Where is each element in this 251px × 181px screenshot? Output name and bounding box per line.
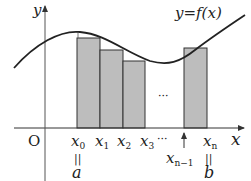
label-x3: x3 (140, 132, 154, 151)
label-xn: xn (203, 132, 217, 151)
rect-3 (123, 61, 145, 128)
middle-ellipsis: ··· (158, 90, 169, 103)
label-x2: x2 (117, 132, 131, 151)
label-b: b (204, 163, 214, 181)
label-a: a (72, 163, 82, 181)
x-axis-label: x (231, 129, 241, 149)
y-axis-label: y (32, 1, 42, 19)
curve-f (14, 15, 245, 68)
curve-label: y=f(x) (174, 4, 222, 22)
label-xn-1: xn−1 (166, 149, 194, 168)
axis-ellipsis: ··· (157, 133, 168, 146)
rectangles (77, 38, 207, 128)
label-x1: x1 (95, 132, 109, 151)
origin-label: O (28, 132, 40, 150)
rect-2 (100, 50, 123, 128)
rect-1 (77, 38, 100, 128)
label-x0: x0 (71, 132, 85, 151)
rect-n (184, 48, 207, 128)
riemann-sum-diagram: y x O y=f(x) ··· x0 || a x1 x2 x3 ··· xn… (0, 0, 251, 181)
